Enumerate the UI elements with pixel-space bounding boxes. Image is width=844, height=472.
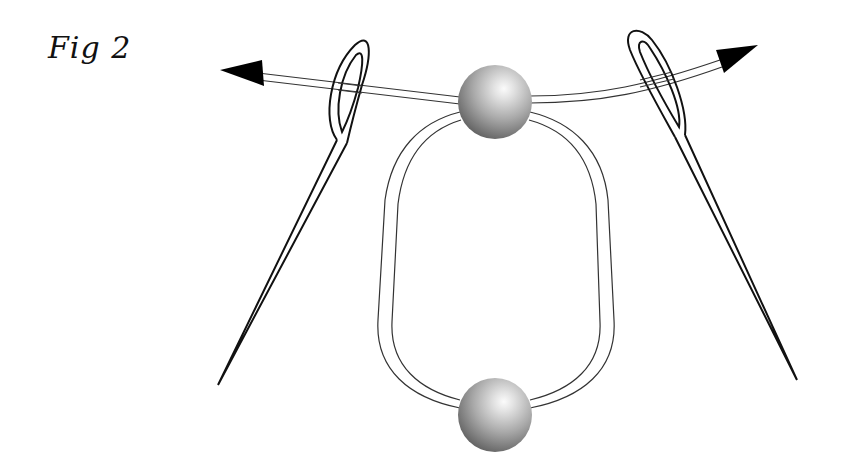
thread-right [530, 60, 722, 103]
thread-loop [378, 112, 614, 408]
arrow-right-icon [716, 45, 758, 73]
arrow-left-icon [220, 60, 264, 86]
needle-right-icon [628, 31, 797, 380]
needle-left-icon [218, 41, 369, 385]
bead-top [458, 65, 532, 139]
beading-diagram [0, 0, 844, 472]
bead-bottom [458, 378, 532, 452]
